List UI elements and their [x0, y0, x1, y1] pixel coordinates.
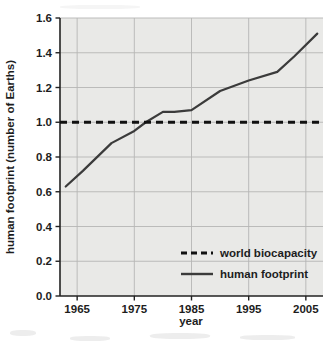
x-axis-title: year — [179, 315, 203, 327]
y-tick-label: 1.0 — [36, 116, 52, 128]
y-axis-title: human footprint (number of Earths) — [4, 60, 16, 254]
x-tick-label: 1985 — [179, 303, 205, 315]
y-tick-label: 0.6 — [36, 186, 52, 198]
scan-artifact — [70, 336, 110, 341]
x-tick-label: 1975 — [122, 303, 148, 315]
scan-artifact — [60, 5, 140, 9]
y-tick-label: 0.0 — [36, 290, 52, 302]
x-tick-label: 1965 — [64, 303, 90, 315]
y-tick-label: 0.2 — [36, 255, 52, 267]
x-tick-label: 2005 — [293, 303, 319, 315]
y-axis-tick-labels: 0.00.20.40.60.81.01.21.41.6 — [36, 12, 53, 302]
x-tick-label: 1995 — [236, 303, 262, 315]
scan-artifact — [150, 333, 210, 339]
scan-artifact — [240, 335, 295, 340]
y-tick-label: 1.4 — [36, 47, 53, 59]
human-footprint-line-chart: 0.00.20.40.60.81.01.21.41.6 196519751985… — [0, 0, 336, 345]
y-tick-label: 0.4 — [36, 221, 53, 233]
chart-container: 0.00.20.40.60.81.01.21.41.6 196519751985… — [0, 0, 336, 345]
y-tick-label: 0.8 — [36, 151, 53, 163]
y-tick-label: 1.6 — [36, 12, 52, 24]
legend-label-world-biocapacity: world biocapacity — [219, 247, 318, 259]
legend-label-human-footprint: human footprint — [220, 268, 308, 280]
y-tick-label: 1.2 — [36, 82, 52, 94]
scan-artifact — [10, 330, 36, 336]
